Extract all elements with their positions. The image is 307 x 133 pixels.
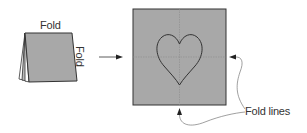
unfolded-paper [133, 9, 226, 105]
arrow-right-icon [99, 55, 123, 60]
arrow-left-icon [229, 55, 245, 110]
folded-paper [19, 33, 77, 82]
fold-side-label: Fold [74, 46, 86, 67]
fold-lines-label: Fold lines [245, 105, 290, 117]
arrow-up-icon [177, 108, 245, 125]
fold-top-label: Fold [40, 19, 61, 31]
